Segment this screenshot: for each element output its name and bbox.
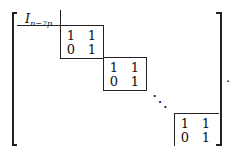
block-2: 1 1 0 1	[103, 57, 147, 91]
block-1: 1 1 0 1	[60, 25, 104, 59]
left-bracket-top	[12, 12, 17, 14]
cell: 1	[109, 61, 119, 74]
cell: 1	[201, 131, 211, 144]
cell: 1	[66, 29, 76, 42]
right-bracket-top	[216, 12, 221, 14]
cell: 1	[180, 117, 190, 130]
right-bracket	[220, 12, 222, 146]
identity-subscript: n−2p	[30, 19, 52, 28]
cell: 1	[130, 61, 140, 74]
left-bracket-bottom	[12, 144, 17, 146]
identity-bottom-rule	[17, 25, 60, 26]
cell: 0	[180, 131, 190, 144]
cell: 1	[130, 75, 140, 88]
identity-right-rule	[60, 10, 61, 26]
left-bracket	[12, 12, 14, 146]
cell: 1	[201, 117, 211, 130]
identity-label: In−2p	[25, 12, 52, 30]
cell: 0	[66, 43, 76, 56]
cell: 0	[109, 75, 119, 88]
diagonal-ellipsis: ⋱	[152, 94, 168, 110]
block-3: 1 1 0 1	[174, 113, 219, 146]
cell: 1	[87, 43, 97, 56]
trailing-period: .	[226, 70, 230, 85]
cell: 1	[87, 29, 97, 42]
